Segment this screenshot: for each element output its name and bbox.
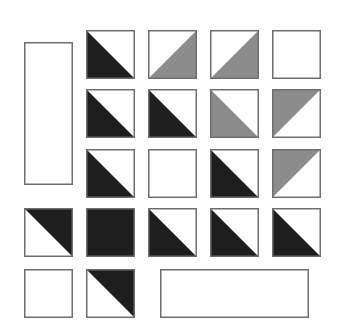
tall-rectangle: [24, 42, 73, 185]
tile-r5-c1: [24, 269, 73, 318]
black-triangle-shape: [86, 208, 135, 257]
tile-r2-c3: [148, 89, 197, 138]
wide-rectangle: [160, 269, 309, 318]
tile-r1-c5: [272, 30, 321, 79]
tile-r1-c4: [210, 30, 259, 79]
tile-r2-c5: [272, 89, 321, 138]
tile-r3-c2: [86, 149, 135, 198]
tile-r4-c1: [24, 208, 73, 257]
tile-r3-c4: [210, 149, 259, 198]
tile-r1-c3: [148, 30, 197, 79]
tile-r1-c2: [86, 30, 135, 79]
tile-r4-c5: [272, 208, 321, 257]
tile-r2-c2: [86, 89, 135, 138]
tile-r3-c5: [272, 149, 321, 198]
tile-r4-c3: [148, 208, 197, 257]
tile-r3-c3: [148, 149, 197, 198]
tile-r4-c4: [210, 208, 259, 257]
tile-r2-c4: [210, 89, 259, 138]
tile-r4-c2: [86, 208, 135, 257]
tile-r5-c2: [86, 269, 135, 318]
